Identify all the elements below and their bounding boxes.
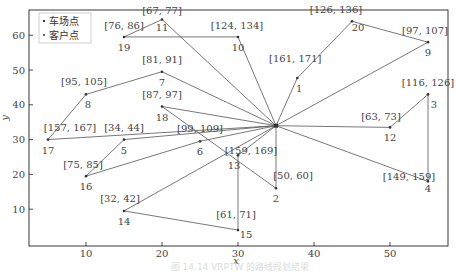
time-window-label-10: [124, 134] [211,20,263,31]
customer-marker-8 [85,93,88,96]
time-window-label-18: [87, 97] [142,89,182,100]
customer-marker-10 [237,36,240,39]
route-7 [276,94,428,181]
route-5 [124,20,276,126]
node-id-label-5: 5 [121,145,127,156]
time-window-label-4: [149, 159] [383,171,435,182]
x-tick-label: 20 [156,248,169,259]
legend-customer-label: 客户点 [49,29,79,41]
y-tick-label: 30 [12,134,25,145]
customer-marker-icon [43,34,45,36]
y-tick-label: 50 [12,65,25,76]
time-window-label-8: [95, 105] [61,76,107,87]
node-id-label-8: 8 [85,99,91,110]
depot-marker [274,124,278,128]
node-id-label-3: 3 [431,99,437,110]
node-labels: [161, 171]1[50, 60]2[116, 126]3[149, 159… [42,4,455,240]
y-axis-label: y [0,115,10,122]
node-id-label-6: 6 [197,146,203,157]
node-id-label-9: 9 [425,47,431,58]
time-window-label-5: [34, 44] [104,122,144,133]
node-id-label-19: 19 [118,42,131,53]
y-tick-label: 40 [12,99,25,110]
route-chart: 1020304050102030405060 [161, 171]1[50, 6… [0,0,456,274]
node-id-label-13: 13 [228,160,241,171]
customer-marker-12 [389,126,392,129]
node-id-label-18: 18 [156,112,169,123]
route-6 [276,21,428,125]
customer-marker-6 [199,140,202,143]
customer-marker-18 [161,105,164,108]
node-id-label-1: 1 [296,83,302,94]
customer-marker-19 [123,36,126,39]
customer-marker-17 [47,138,50,141]
node-id-label-4: 4 [425,183,431,194]
time-window-label-6: [99, 109] [177,123,223,134]
time-window-label-19: [76, 86] [104,20,144,31]
y-tick-label: 20 [12,169,25,180]
node-id-label-7: 7 [159,77,165,88]
legend: 车场点 客户点 [39,13,91,43]
node-id-label-12: 12 [384,132,397,143]
customer-marker-7 [161,70,164,73]
customer-marker-16 [85,175,88,178]
node-id-label-16: 16 [80,181,93,192]
time-window-label-2: [50, 60] [273,170,313,181]
customer-marker-11 [161,18,164,21]
time-window-label-1: [161, 171] [269,53,321,64]
time-window-label-7: [81, 91] [142,54,182,65]
customer-marker-1 [296,77,299,80]
time-window-label-15: [61, 71] [216,209,256,220]
time-window-label-14: [32, 42] [100,193,140,204]
node-id-label-11: 11 [156,22,169,33]
time-window-label-17: [157, 167] [44,122,96,133]
node-id-label-17: 17 [42,145,55,156]
depot-marker-icon [43,20,45,22]
figure-caption: 图 14.14 VRPTW 的路线规划结果 [90,260,390,273]
time-window-label-12: [63, 73] [361,111,401,122]
customer-marker-3 [427,93,430,96]
y-tick-label: 10 [12,204,25,215]
node-id-label-14: 14 [118,216,131,227]
x-tick-label: 40 [308,248,321,259]
customer-marker-9 [427,41,430,44]
time-window-label-3: [116, 126] [402,77,454,88]
node-id-label-2: 2 [273,193,279,204]
node-id-label-10: 10 [232,42,245,53]
x-tick-label: 10 [80,248,93,259]
legend-depot-label: 车场点 [49,15,79,27]
node-id-label-15: 15 [240,229,253,240]
x-tick-label: 50 [384,248,397,259]
customer-marker-2 [275,187,278,190]
node-id-label-20: 20 [352,22,365,33]
time-window-label-20: [126, 136] [310,4,362,15]
customer-marker-5 [123,138,126,141]
time-window-label-9: [97, 107] [402,25,448,36]
time-window-label-16: [75, 85] [63,159,103,170]
y-tick-label: 60 [12,30,25,41]
time-window-label-11: [67, 77] [142,5,182,16]
time-window-label-13: [159, 169] [225,145,277,156]
customer-marker-14 [123,210,126,213]
